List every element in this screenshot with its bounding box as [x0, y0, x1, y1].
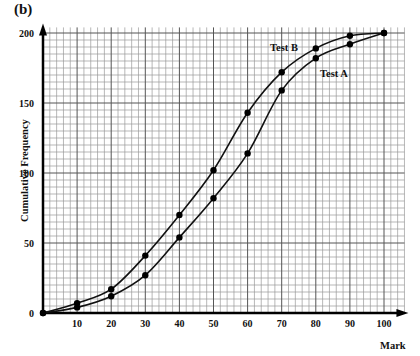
y-tick-label: 100: [4, 168, 34, 179]
data-point: [74, 300, 80, 306]
y-tick-label: 200: [4, 28, 34, 39]
data-point: [142, 272, 148, 278]
data-point: [381, 30, 387, 36]
data-point: [176, 234, 182, 240]
x-tick-label: 60: [243, 318, 253, 329]
x-axis-label: Mark: [380, 340, 406, 351]
data-point: [108, 286, 114, 292]
data-point: [142, 252, 148, 258]
x-tick-label: 70: [277, 318, 287, 329]
y-tick-label: 50: [4, 238, 34, 249]
x-tick-label: 40: [174, 318, 184, 329]
data-point: [210, 167, 216, 173]
series-label-test-a: Test A: [320, 68, 348, 79]
data-point: [347, 33, 353, 39]
axes: [39, 23, 408, 317]
cumulative-frequency-chart: [0, 0, 420, 356]
x-tick-label: 90: [345, 318, 355, 329]
x-tick-label: 80: [311, 318, 321, 329]
panel-label: (b): [14, 1, 32, 18]
data-point: [244, 150, 250, 156]
data-point: [313, 45, 319, 51]
x-tick-label: 100: [377, 318, 392, 329]
data-point: [347, 41, 353, 47]
data-point: [313, 55, 319, 61]
data-point: [279, 69, 285, 75]
data-point: [244, 110, 250, 116]
data-point: [279, 87, 285, 93]
x-tick-label: 10: [72, 318, 82, 329]
y-tick-label: 150: [4, 98, 34, 109]
data-point: [176, 212, 182, 218]
y-tick-label: 0: [4, 308, 34, 319]
x-tick-label: 20: [106, 318, 116, 329]
x-tick-label: 50: [209, 318, 219, 329]
data-point: [108, 293, 114, 299]
series-label-test-b: Test B: [270, 42, 298, 53]
data-point: [210, 195, 216, 201]
x-tick-label: 30: [140, 318, 150, 329]
data-point: [40, 310, 46, 316]
